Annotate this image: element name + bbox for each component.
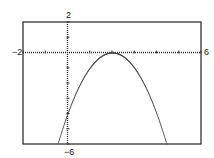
- y-max-label: 2: [66, 11, 71, 20]
- x-min-label: −2: [12, 48, 22, 57]
- y-min-label: −6: [64, 148, 74, 157]
- x-max-label: 6: [204, 48, 209, 57]
- axes: [23, 22, 201, 144]
- graph-plot: [0, 0, 214, 158]
- parabola-curve: [58, 53, 168, 145]
- plot-frame: [23, 22, 201, 144]
